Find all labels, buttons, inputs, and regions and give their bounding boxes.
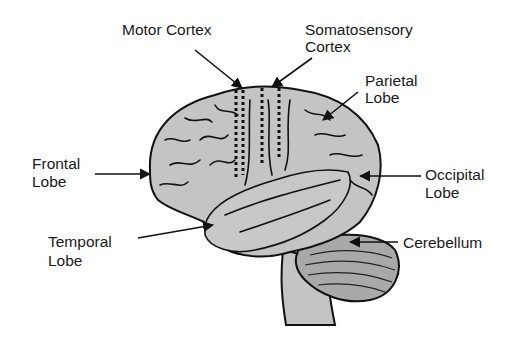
- label-temporal-line2: Lobe: [48, 252, 82, 269]
- somatosensory-arrow: [272, 58, 312, 87]
- motor-cortex-arrow: [195, 50, 242, 88]
- label-somatosensory-line1: Somatosensory: [305, 21, 413, 38]
- label-occipital-line2: Lobe: [425, 184, 459, 201]
- label-frontal-line1: Frontal: [32, 155, 80, 172]
- label-parietal-line2: Lobe: [365, 89, 399, 106]
- label-parietal-line1: Parietal: [365, 72, 418, 89]
- brain-diagram: Motor Cortex Somatosensory Cortex Pariet…: [0, 0, 526, 345]
- label-occipital-line1: Occipital: [425, 166, 484, 183]
- label-temporal-line1: Temporal: [48, 233, 112, 250]
- temporal-arrow: [138, 225, 213, 238]
- label-cerebellum: Cerebellum: [403, 234, 482, 251]
- label-motor-cortex: Motor Cortex: [122, 21, 212, 38]
- label-somatosensory-line2: Cortex: [305, 38, 351, 55]
- label-frontal-line2: Lobe: [32, 173, 66, 190]
